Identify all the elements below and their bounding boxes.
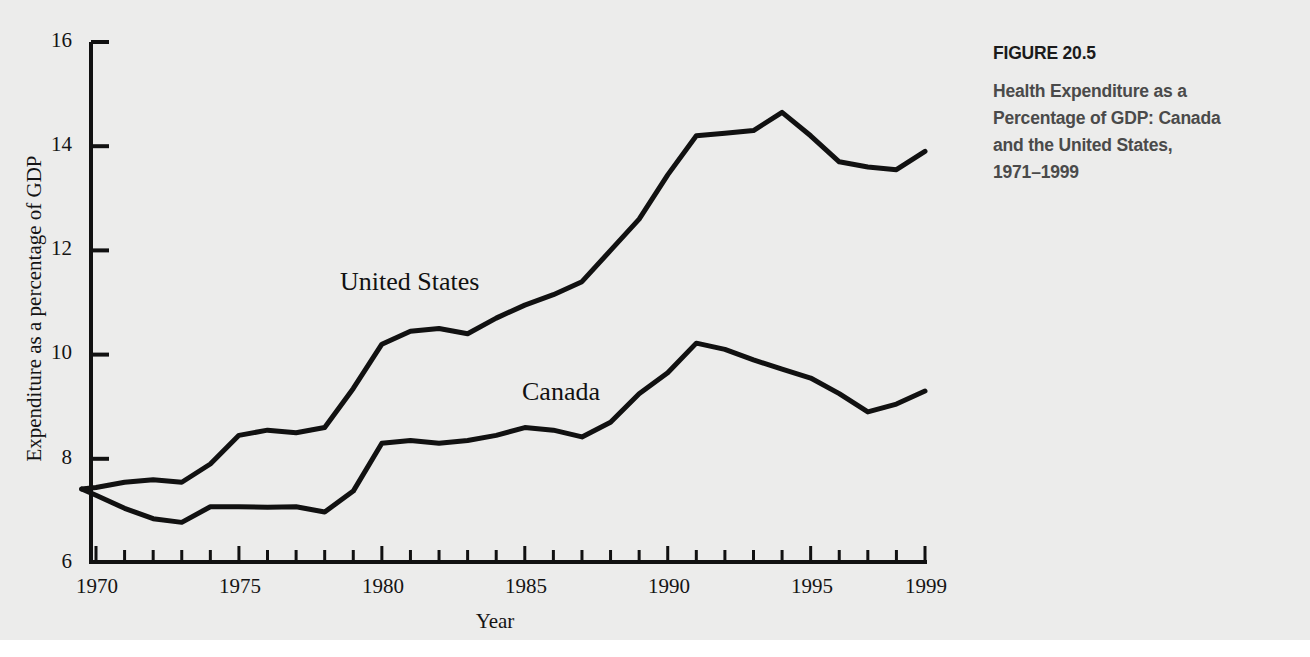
y-axis-title-wrapper: Expenditure as a percentage of GDP bbox=[22, 79, 47, 539]
x-tick-label-1999: 1999 bbox=[889, 574, 963, 599]
figure-number: FIGURE 20.5 bbox=[993, 43, 1273, 64]
figure-title-line-4: 1971–1999 bbox=[993, 159, 1273, 186]
figure-title-line-3: and the United States, bbox=[993, 132, 1273, 159]
figure-title: Health Expenditure as a Percentage of GD… bbox=[993, 78, 1273, 186]
x-tick-label-1995: 1995 bbox=[775, 574, 849, 599]
y-tick-label-16: 16 bbox=[30, 28, 72, 53]
x-tick-label-1985: 1985 bbox=[489, 574, 563, 599]
axis-lines bbox=[89, 42, 927, 564]
figure-title-line-2: Percentage of GDP: Canada bbox=[993, 105, 1273, 132]
series-label-united-states: United States bbox=[340, 267, 479, 297]
data-series-lines bbox=[82, 112, 925, 522]
x-tick-label-1990: 1990 bbox=[632, 574, 706, 599]
x-axis-title: Year bbox=[435, 609, 555, 634]
y-tick-label-6: 6 bbox=[30, 549, 72, 574]
figure-caption: FIGURE 20.5 Health Expenditure as a Perc… bbox=[993, 43, 1273, 186]
line-chart-svg bbox=[0, 0, 960, 657]
chart-plot-area: 16 14 12 10 8 6 1970 1975 1980 1985 1990… bbox=[0, 0, 960, 657]
x-tick-label-1980: 1980 bbox=[346, 574, 420, 599]
y-axis-title: Expenditure as a percentage of GDP bbox=[22, 79, 47, 539]
figure-page: 16 14 12 10 8 6 1970 1975 1980 1985 1990… bbox=[0, 0, 1310, 657]
page-bottom-margin bbox=[0, 640, 1310, 657]
x-tick-label-1970: 1970 bbox=[60, 574, 134, 599]
x-tick-label-1975: 1975 bbox=[203, 574, 277, 599]
figure-title-line-1: Health Expenditure as a bbox=[993, 78, 1273, 105]
series-line-canada bbox=[82, 343, 925, 522]
series-label-canada: Canada bbox=[522, 377, 600, 407]
